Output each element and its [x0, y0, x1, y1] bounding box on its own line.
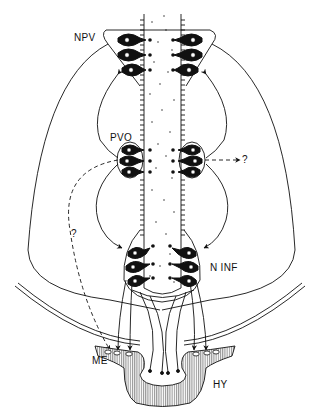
label-question-left: ? [71, 229, 77, 239]
label-pvo: PVO [110, 133, 132, 143]
label-hy: HY [213, 380, 228, 390]
neurons [118, 34, 202, 287]
label-me: ME [92, 356, 108, 366]
label-ninf: N INF [210, 263, 238, 273]
diagram-canvas [0, 0, 320, 413]
label-question-right: ? [242, 155, 248, 165]
csf-dots [149, 15, 174, 282]
label-npv: NPV [74, 33, 95, 43]
